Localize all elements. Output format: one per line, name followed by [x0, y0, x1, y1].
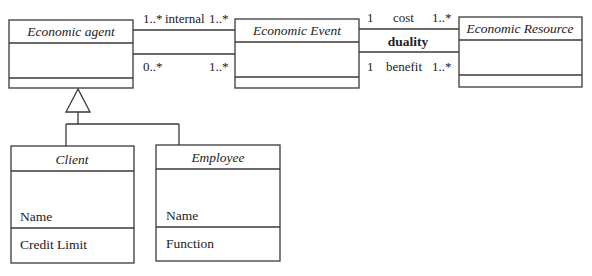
class-economic-agent[interactable]: Economic agent — [9, 20, 133, 88]
association-cost[interactable]: 1 cost 1..* — [359, 10, 459, 29]
uml-diagram-canvas: Economic agent Economic Event Economic R… — [0, 0, 592, 276]
generalization-triangle-icon — [66, 89, 90, 112]
multiplicity-from: 0..* — [143, 59, 163, 74]
multiplicity-from: 1 — [367, 59, 374, 74]
duality-label: duality — [388, 34, 429, 49]
multiplicity-from: 1 — [367, 10, 374, 25]
attribute-name: Name — [166, 208, 198, 223]
multiplicity-to: 1..* — [209, 11, 229, 26]
class-employee[interactable]: Employee Name Function — [156, 145, 280, 261]
generalization[interactable] — [66, 89, 179, 146]
class-economic-resource[interactable]: Economic Resource — [459, 17, 582, 87]
class-name: Economic Event — [252, 23, 342, 38]
association-label: internal — [165, 11, 205, 26]
attribute-name: Name — [20, 209, 52, 224]
class-name: Economic Resource — [465, 21, 573, 36]
attribute-credit-limit: Credit Limit — [20, 237, 87, 252]
association-internal[interactable]: 1..* internal 1..* — [133, 11, 235, 30]
association-benefit[interactable]: 1 benefit 1..* — [359, 52, 459, 74]
attribute-function: Function — [166, 236, 214, 251]
multiplicity-to: 1..* — [432, 59, 452, 74]
class-client[interactable]: Client Name Credit Limit — [11, 146, 134, 263]
multiplicity-to: 1..* — [432, 10, 452, 25]
class-name: Employee — [190, 150, 244, 165]
association-label: benefit — [386, 59, 422, 74]
class-economic-event[interactable]: Economic Event — [235, 19, 359, 88]
multiplicity-from: 1..* — [143, 11, 163, 26]
association-agent-event[interactable]: 0..* 1..* — [133, 54, 235, 74]
class-name: Economic agent — [26, 24, 116, 39]
class-name: Client — [56, 152, 90, 167]
multiplicity-to: 1..* — [209, 59, 229, 74]
association-label: cost — [393, 10, 414, 25]
